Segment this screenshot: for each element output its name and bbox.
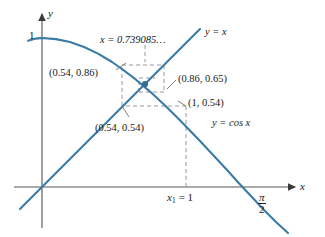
y-tick-label-1: 1 [29,30,35,41]
label-leader-lines [116,63,186,117]
curve-label-cos: y = cos x [212,118,250,129]
curve-label-line: y = x [205,27,227,38]
curve-y-equals-x [20,29,200,209]
pi-denominator: 2 [258,204,266,215]
x-tick-label-x1: x1= 1 [167,192,193,205]
point-label-054-086: (0.54, 0.86) [49,68,98,79]
leader-086-065 [167,80,176,89]
point-label-054-054: (0.54, 0.54) [95,123,144,134]
leader-054-054 [122,106,129,117]
root-value-label: x = 0.739085… [100,35,166,46]
point-label-086-065: (0.86, 0.65) [178,74,227,85]
x1-equals-value: = 1 [179,191,193,203]
y-axis-label: y [48,8,53,19]
figure-fixed-point-cosine: y x 1 x = 0.739085… y = x y = cos x (0.5… [0,0,325,237]
fixed-point-dot [142,81,148,87]
x-axis-label: x [300,181,305,192]
point-label-1-054: (1, 0.54) [188,98,224,109]
x1-subscript: 1 [172,196,176,205]
leader-1-054 [178,101,186,106]
x-tick-label-pi-over-2: π 2 [258,192,266,215]
